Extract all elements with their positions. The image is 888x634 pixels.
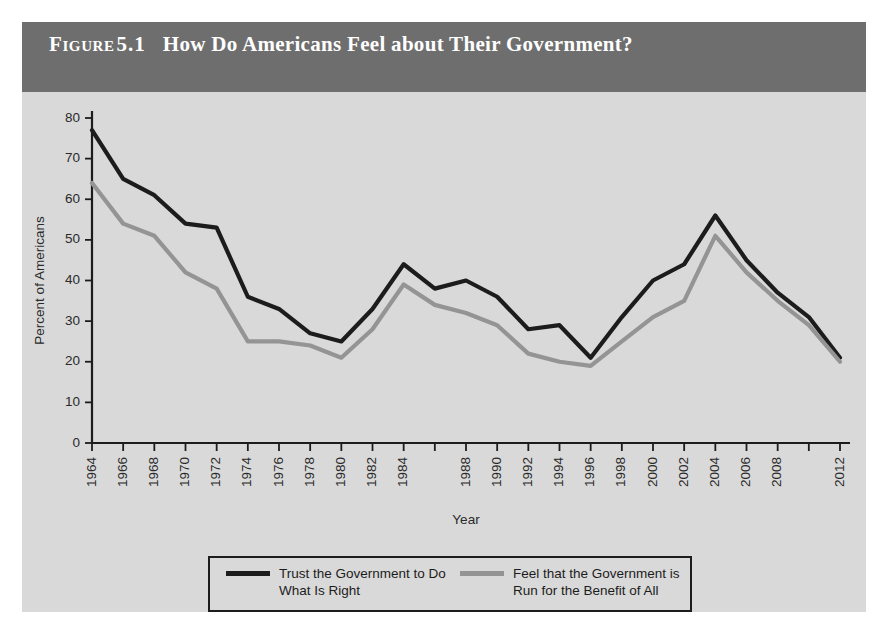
x-tick-label: 1982 [364, 457, 379, 487]
x-axis: 1964196619681970197219741976197819801982… [84, 443, 850, 487]
line-chart: 01020304050607080 1964196619681970197219… [22, 92, 866, 612]
x-tick-label: 1980 [333, 457, 348, 487]
x-tick-label: 1976 [271, 457, 286, 487]
y-tick-label: 70 [65, 150, 80, 165]
legend-swatch-trust [226, 571, 270, 576]
y-tick-label: 60 [65, 191, 80, 206]
figure-number: 5.1 [117, 32, 146, 56]
x-tick-label: 1978 [302, 457, 317, 487]
chart-series-group [92, 130, 840, 366]
x-tick-label: 1970 [177, 457, 192, 487]
x-axis-title: Year [452, 512, 480, 527]
x-tick-label: 1994 [551, 457, 566, 488]
series-line-1 [92, 183, 840, 366]
x-tick-label: 2008 [769, 457, 784, 487]
legend-label-trust: Trust the Government to Do What Is Right [279, 565, 446, 599]
x-tick-label: 1988 [458, 457, 473, 487]
x-tick-label: 1964 [84, 457, 99, 488]
x-tick-label: 2012 [832, 457, 847, 487]
x-tick-label: 1968 [146, 457, 161, 487]
y-tick-label: 80 [65, 110, 80, 125]
legend-swatch-benefit [460, 571, 504, 576]
y-tick-label: 40 [65, 272, 80, 287]
y-axis: 01020304050607080 [65, 110, 92, 450]
series-line-0 [92, 130, 840, 358]
x-tick-label: 1996 [582, 457, 597, 487]
y-tick-label: 50 [65, 231, 80, 246]
x-tick-label: 1984 [395, 457, 410, 488]
legend-item-benefit: Feel that the Government is Run for the … [460, 565, 680, 599]
figure-title-text: Figure5.1How Do Americans Feel about The… [49, 31, 839, 57]
x-tick-label: 2000 [645, 457, 660, 487]
x-tick-label: 1974 [239, 457, 254, 488]
y-tick-label: 20 [65, 353, 80, 368]
x-tick-label: 1998 [613, 457, 628, 487]
y-tick-label: 30 [65, 313, 80, 328]
chart-panel: 01020304050607080 1964196619681970197219… [22, 92, 866, 612]
x-tick-label: 1990 [489, 457, 504, 487]
y-tick-label: 10 [65, 394, 80, 409]
chart-legend: Trust the Government to Do What Is Right… [208, 556, 692, 612]
figure-label: Figure [49, 32, 115, 56]
page-title: How Do Americans Feel about Their Govern… [163, 32, 633, 56]
x-tick-label: 2006 [738, 457, 753, 487]
y-tick-label: 0 [72, 435, 80, 450]
x-tick-label: 2002 [676, 457, 691, 487]
x-tick-label: 2004 [707, 457, 722, 488]
figure-root: Figure5.1How Do Americans Feel about The… [0, 0, 888, 634]
legend-label-benefit: Feel that the Government is Run for the … [513, 565, 680, 599]
legend-item-trust: Trust the Government to Do What Is Right [226, 565, 446, 599]
figure-title-bar: Figure5.1How Do Americans Feel about The… [22, 22, 866, 92]
x-tick-label: 1972 [208, 457, 223, 487]
x-tick-label: 1992 [520, 457, 535, 487]
x-tick-label: 1966 [115, 457, 130, 487]
y-axis-title: Percent of Americans [32, 216, 47, 345]
